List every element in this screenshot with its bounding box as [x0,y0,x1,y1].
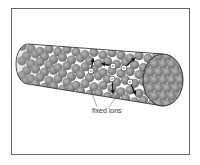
fixed-ion [98,81,107,90]
fixed-ion [53,74,62,83]
fixed-ion [80,79,89,88]
fixed-ion [62,61,71,70]
fixed-ion [58,53,67,62]
velocity-arrow-icon [112,82,113,92]
fixed-ion [76,70,85,79]
conductor-diagram [0,0,200,165]
fixed-ions-label: fixed ions [92,107,122,114]
